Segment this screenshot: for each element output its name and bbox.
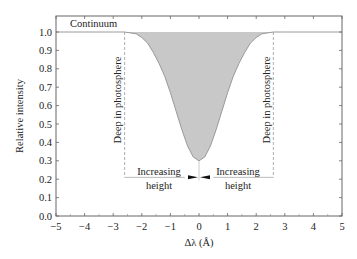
- x-tick-label: 0: [196, 221, 201, 232]
- y-tick-label: 0.8: [39, 63, 52, 74]
- x-tick-label: −1: [165, 221, 176, 232]
- increasing-height-left-line2: height: [146, 180, 172, 191]
- y-tick-label: 1.0: [39, 27, 52, 38]
- y-tick-label: 0.7: [39, 82, 52, 93]
- y-axis-title: Relative intensity: [14, 78, 25, 153]
- x-axis-title: Δλ (Å): [184, 237, 214, 249]
- y-tick-label: 0.0: [39, 211, 52, 222]
- y-tick-label: 0.9: [39, 45, 52, 56]
- x-tick-label: −4: [79, 221, 91, 232]
- y-tick-label: 0.5: [39, 119, 52, 130]
- x-tick-label: −5: [50, 221, 61, 232]
- y-tick-label: 0.4: [39, 137, 53, 148]
- y-tick-label: 0.1: [39, 192, 52, 203]
- increasing-height-right-line1: Increasing: [216, 166, 260, 177]
- x-tick-label: −2: [136, 221, 147, 232]
- x-tick-label: 4: [311, 221, 317, 232]
- x-tick-label: 2: [254, 221, 259, 232]
- y-tick-label: 0.3: [39, 155, 52, 166]
- x-tick-label: −3: [108, 221, 119, 232]
- deep-photosphere-left-label: Deep in photosphere: [112, 56, 123, 143]
- x-tick-label: 1: [225, 221, 230, 232]
- increasing-height-left-line1: Increasing: [137, 166, 181, 177]
- x-tick-label: 5: [339, 221, 344, 232]
- x-tick-label: 3: [282, 221, 287, 232]
- line-profile-chart: −5−4−3−2−1012345 0.00.10.20.30.40.50.60.…: [0, 0, 357, 259]
- deep-photosphere-right-label: Deep in photosphere: [261, 56, 272, 143]
- continuum-label: Continuum: [70, 18, 117, 29]
- y-tick-label: 0.6: [39, 100, 52, 111]
- y-tick-label: 0.2: [39, 174, 52, 185]
- increasing-height-right-line2: height: [225, 180, 251, 191]
